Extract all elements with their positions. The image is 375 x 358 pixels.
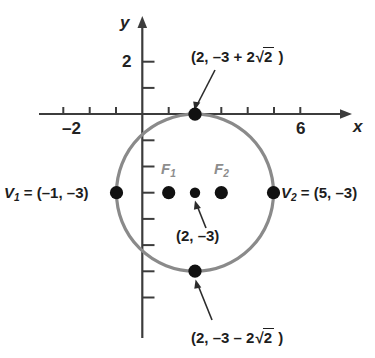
- point-top: [188, 108, 201, 121]
- callout-center-point: (2, –3): [176, 228, 219, 243]
- y-tick-label-2: 2: [122, 53, 131, 70]
- y-axis: [138, 16, 155, 338]
- x-tick-label-neg2: –2: [62, 120, 81, 137]
- callout-bottom-suffix: ): [274, 329, 283, 346]
- point-bottom: [188, 265, 201, 278]
- focus-1-var: F: [161, 160, 170, 177]
- y-axis-ticks: [142, 62, 154, 298]
- sqrt-icon-bottom: √2: [254, 330, 274, 345]
- coordinate-plane-svg: [0, 0, 375, 358]
- callout-top-prefix: (2, –3 + 2: [191, 48, 255, 65]
- y-axis-label: y: [120, 14, 129, 31]
- vertex-right-label: V2 = (5, –3): [281, 185, 357, 203]
- point-focus-2: [215, 186, 228, 199]
- callout-bottom-prefix: (2, –3 – 2: [191, 329, 254, 346]
- leader-center-callout: [194, 201, 206, 229]
- point-vertex-right: [267, 186, 280, 199]
- vertex-left-var: V: [4, 184, 14, 201]
- callout-top-point: (2, –3 + 2√2 ): [191, 49, 284, 64]
- callout-bottom-point: (2, –3 – 2√2 ): [191, 330, 283, 345]
- focus-1-sub: 1: [170, 168, 176, 179]
- point-focus-1: [162, 186, 175, 199]
- math-figure-circle-with-foci: y x 2 –2 6 (2, –3 + 2√2 ) (2, –3 – 2√2 )…: [0, 0, 375, 358]
- x-tick-label-6: 6: [296, 120, 305, 137]
- vertex-right-var: V: [281, 184, 291, 201]
- x-axis-label: x: [353, 118, 362, 135]
- callout-top-suffix: ): [274, 48, 283, 65]
- focus-1-label: F1: [161, 161, 176, 179]
- leader-bottom-callout: [194, 280, 212, 321]
- point-center: [190, 188, 200, 198]
- point-vertex-left: [110, 186, 123, 199]
- focus-2-var: F: [214, 160, 223, 177]
- focus-2-label: F2: [214, 161, 229, 179]
- vertex-left-label: V1 = (–1, –3): [4, 185, 88, 203]
- leader-top-callout: [193, 70, 215, 111]
- vertex-right-value: = (5, –3): [297, 184, 357, 201]
- vertex-left-value: = (–1, –3): [20, 184, 89, 201]
- sqrt-icon-top: √2: [255, 49, 275, 64]
- focus-2-sub: 2: [223, 168, 229, 179]
